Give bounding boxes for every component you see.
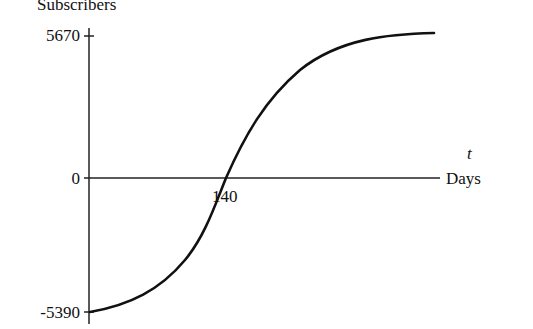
y-tick-label-top: 5670 — [0, 27, 80, 44]
y-axis-label: Subscribers — [37, 0, 116, 13]
x-axis-label: Days — [446, 170, 481, 187]
y-tick-label-zero: 0 — [0, 170, 80, 187]
x-intercept-label: 140 — [212, 188, 238, 205]
subscriber-curve — [90, 33, 434, 312]
y-tick-label-bottom: -5390 — [0, 304, 80, 321]
x-axis-variable: t — [467, 145, 472, 162]
chart-canvas — [0, 0, 533, 329]
